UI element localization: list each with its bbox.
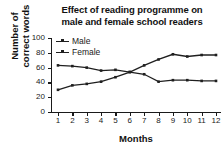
data-point-male (143, 64, 146, 67)
legend-item-female: Female (56, 47, 100, 57)
series-line-male (58, 54, 216, 90)
data-point-female (57, 64, 60, 67)
data-point-male (186, 55, 189, 58)
data-point-female (114, 69, 117, 72)
series-line-female (58, 65, 216, 81)
data-point-female (200, 80, 203, 83)
legend-label-male: Male (72, 37, 90, 46)
data-point-female (215, 80, 218, 83)
chart-title-line-1: Effect of reading programme on (44, 4, 220, 16)
data-point-male (200, 54, 203, 57)
y-axis-title: Number of correct words (6, 0, 34, 81)
data-point-male (172, 53, 175, 56)
data-point-female (85, 66, 88, 69)
y-axis-title-line-2: correct words (20, 5, 31, 68)
data-point-male (57, 89, 60, 92)
y-tick-label: 80 (36, 49, 45, 57)
data-point-male (114, 76, 117, 79)
x-tick-label: 12 (208, 117, 223, 125)
x-axis-title: Months (51, 133, 221, 144)
data-point-male (100, 80, 103, 83)
chart-legend: Male Female (56, 36, 100, 58)
data-point-female (129, 71, 132, 74)
data-point-female (172, 79, 175, 82)
legend-label-female: Female (72, 48, 100, 57)
data-point-female (157, 80, 160, 83)
y-tick-label: 60 (36, 64, 45, 72)
chart-title-line-2: male and female school readers (44, 16, 220, 28)
data-point-female (186, 79, 189, 82)
chart-title: Effect of reading programme on male and … (44, 4, 220, 27)
data-point-female (71, 65, 74, 68)
data-point-male (71, 84, 74, 87)
data-point-female (143, 73, 146, 76)
data-point-male (157, 58, 160, 61)
y-axis-title-line-1: Number of (9, 5, 20, 68)
data-point-male (215, 54, 218, 57)
y-tick-label: 40 (36, 78, 45, 86)
y-tick-label: 0 (41, 108, 45, 116)
y-tick-label: 20 (36, 93, 45, 101)
data-point-male (85, 83, 88, 86)
y-tick-label: 100 (32, 34, 45, 42)
legend-item-male: Male (56, 36, 100, 46)
line-chart: Effect of reading programme on male and … (0, 0, 223, 152)
data-point-female (100, 69, 103, 72)
legend-line-marker-icon (56, 38, 69, 45)
legend-line-marker-icon (56, 49, 69, 56)
